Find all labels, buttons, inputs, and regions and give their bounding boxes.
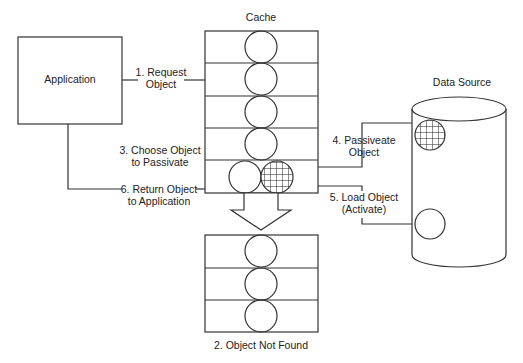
step3-line2: to Passivate: [131, 156, 188, 168]
step3-line1: 3. Choose Object: [119, 144, 200, 156]
cache-title: Cache: [246, 11, 277, 23]
step5-line2: (Activate): [342, 203, 386, 215]
cache-box: [205, 31, 318, 193]
data-source-title: Data Source: [433, 76, 492, 88]
object-cache-diagram: Application Cache Data Source 1. Request…: [0, 0, 523, 363]
step6-line1: 6. Return Object: [121, 183, 198, 195]
step4-line2: Object: [349, 146, 379, 158]
step1-line1: 1. Request: [136, 66, 187, 78]
step4-line1: 4. Passiveate: [332, 134, 395, 146]
not-found-cache-box: [205, 235, 318, 332]
step5-line1: 5. Load Object: [330, 191, 398, 203]
step2-caption: 2. Object Not Found: [214, 339, 308, 351]
step1-line2: Object: [146, 78, 176, 90]
step6-line2: to Application: [128, 195, 191, 207]
application-label: Application: [44, 73, 96, 85]
